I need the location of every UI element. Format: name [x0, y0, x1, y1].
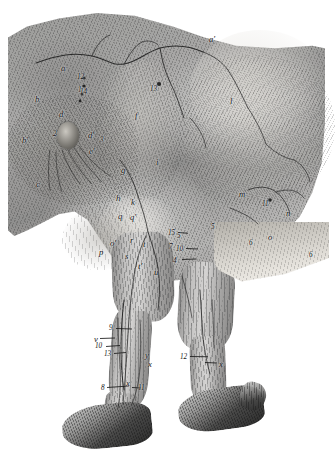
- reference-label-oprime: o′: [110, 239, 116, 248]
- reference-label-d: d: [59, 110, 63, 119]
- reference-label-k: k: [131, 198, 135, 207]
- reference-label-t: t: [143, 240, 145, 249]
- reference-label-h: h: [116, 194, 120, 203]
- near-hind-hoof: [60, 399, 154, 452]
- reference-label-n6b: 6: [309, 252, 313, 259]
- reference-label-n13b: 13: [150, 86, 157, 93]
- reference-label-o: o: [268, 233, 272, 242]
- reference-label-y: y: [145, 351, 149, 360]
- reference-label-dprime: d′: [88, 131, 94, 140]
- reference-label-l: l: [230, 97, 232, 106]
- reference-label-n15: 15: [168, 230, 175, 237]
- reference-label-f: f: [135, 111, 137, 120]
- reference-label-n10b: 10: [176, 246, 183, 253]
- reference-label-n12b: 12: [77, 74, 84, 81]
- reference-label-u: u: [154, 268, 158, 277]
- reference-label-qprime: q′: [130, 213, 136, 222]
- reference-label-n12: 12: [180, 354, 187, 361]
- reference-label-aprime: a′: [209, 35, 215, 44]
- reference-label-n2: 2: [53, 131, 57, 138]
- reference-label-n3: 3: [100, 137, 104, 144]
- reference-label-n11: 11: [138, 385, 145, 392]
- reference-label-m: m: [239, 190, 245, 199]
- reference-label-b: b: [35, 95, 39, 104]
- reference-label-q: q: [118, 212, 122, 221]
- reference-label-n8: 8: [101, 385, 105, 392]
- reference-label-g: g: [121, 166, 125, 175]
- reference-label-c: c: [36, 180, 40, 189]
- reference-label-s: s: [125, 252, 128, 261]
- reference-label-n4: 4: [173, 258, 177, 265]
- reference-label-eprime: e′: [89, 147, 95, 156]
- reference-label-x2: x: [126, 379, 130, 388]
- reference-label-i: i: [156, 158, 158, 167]
- reference-label-x3: x: [219, 360, 223, 369]
- reference-label-n: n: [286, 209, 290, 218]
- reference-label-tprime: t′: [138, 262, 142, 271]
- reference-label-r: r: [130, 236, 133, 245]
- reference-label-n5: 5: [177, 233, 181, 240]
- reference-label-n14: 14: [80, 89, 87, 96]
- reference-label-n13: 13: [104, 351, 111, 358]
- reference-label-p: p: [99, 248, 103, 257]
- reference-label-a: a: [61, 64, 65, 73]
- reference-label-bprime: b′: [22, 136, 28, 145]
- reference-label-n11b: 11: [262, 201, 269, 208]
- reference-label-n10: 10: [95, 343, 102, 350]
- reference-label-n7: 7: [169, 244, 173, 251]
- reference-label-n5b: 5: [211, 224, 215, 231]
- reference-label-n9: 9: [109, 325, 113, 332]
- reference-label-x: x: [148, 360, 152, 369]
- reference-label-n6: 6: [249, 240, 253, 247]
